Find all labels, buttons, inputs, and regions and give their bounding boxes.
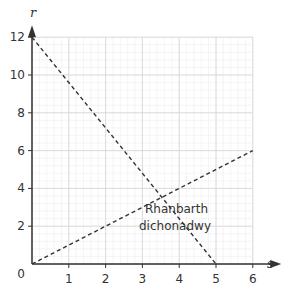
y-tick-label: 8 [17,106,25,120]
chart: 123456024681012 r s Rhanbarth dichonadwy [0,0,286,297]
y-tick-label: 12 [10,30,25,44]
region-label-line2: dichonadwy [139,219,211,233]
y-tick-label: 6 [17,144,25,158]
y-tick-label: 2 [17,219,25,233]
region-label-line1: Rhanbarth [145,202,208,216]
y-tick-label: 10 [10,68,25,82]
x-tick-label: 5 [212,272,220,286]
x-tick-label: 1 [65,272,73,286]
x-tick-label: 2 [102,272,110,286]
x-tick-label: 6 [249,272,257,286]
y-tick-label: 4 [17,181,25,195]
x-tick-label: 3 [139,272,147,286]
y-axis-arrow-icon [28,25,36,37]
y-axis-label: r [30,5,37,20]
y-tick-label: 0 [17,267,25,281]
x-axis-label: s [267,256,274,271]
x-tick-label: 4 [175,272,183,286]
